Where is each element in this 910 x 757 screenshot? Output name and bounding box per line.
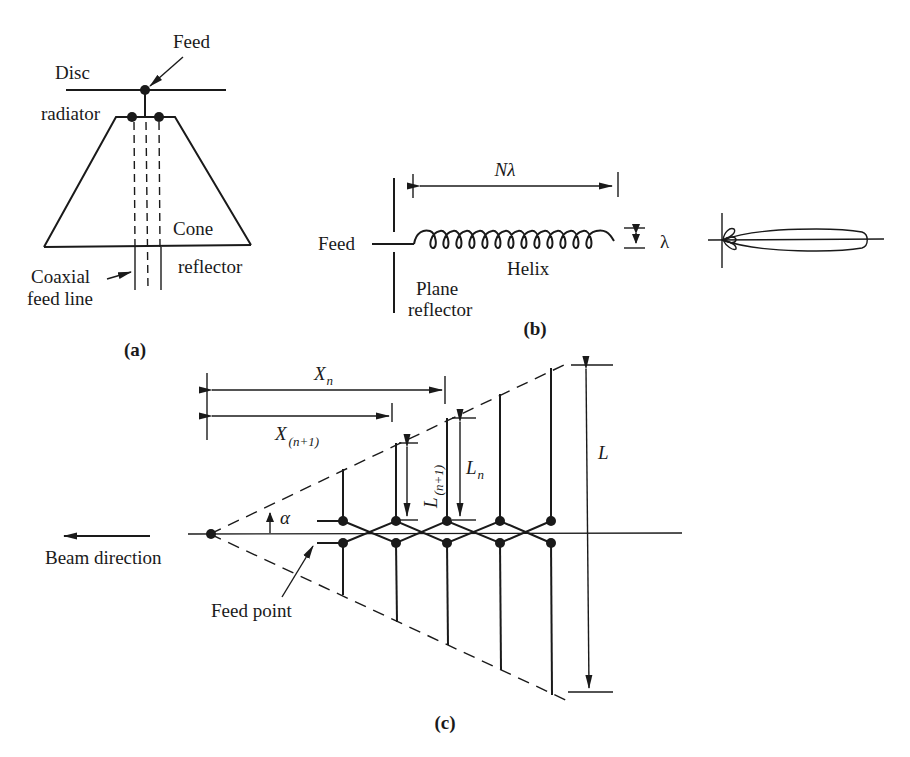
label-xn: Xn [313, 363, 333, 388]
label-reflector: reflector [178, 256, 243, 277]
coax-outer-dot-left [127, 112, 137, 122]
coax-outer-dot-right [154, 112, 164, 122]
feed-arrow-icon [150, 57, 183, 86]
apex-dot [206, 529, 216, 539]
helix-coil [414, 230, 614, 248]
element-2-lower [396, 543, 397, 622]
label-xn1: X(n+1) [274, 423, 319, 449]
element-4-lower [500, 543, 501, 670]
dipole-elements [343, 368, 552, 695]
label-ln1: L(n+1) [420, 465, 446, 509]
label-feed-line: feed line [27, 288, 93, 309]
coax-dashed-right [159, 122, 160, 247]
label-feed-point: Feed point [211, 600, 292, 621]
feed-point-arrow-icon [282, 546, 313, 597]
coax-dashed-center [146, 122, 148, 290]
panel-c-log-periodic-array: Xn X(n+1) L(n+1) Ln L α Beam direction F… [45, 363, 682, 734]
label-cone: Cone [173, 218, 213, 239]
antenna-figure: Feed Disc radiator Cone reflector Coaxia… [0, 0, 910, 757]
label-plane: Plane [416, 278, 458, 299]
label-radiator: radiator [41, 103, 101, 124]
crossed-feed-line [317, 516, 556, 548]
caption-a: (a) [124, 339, 146, 361]
pattern-horizontal-axis [708, 239, 884, 240]
coaxial-arrow-icon [107, 272, 131, 279]
label-ln: Ln [465, 457, 484, 482]
element-3-lower [447, 543, 448, 645]
coax-dashed-left [134, 122, 135, 247]
label-coaxial: Coaxial [31, 266, 90, 287]
caption-c: (c) [434, 712, 455, 734]
label-helix: Helix [507, 258, 550, 279]
label-beam-direction: Beam direction [45, 547, 162, 568]
label-feed: Feed [318, 233, 355, 254]
element-5-lower [551, 543, 552, 695]
radiation-pattern-icon [708, 213, 884, 268]
label-reflector: reflector [408, 299, 473, 320]
label-disc: Disc [55, 62, 90, 83]
panel-a-discone-antenna: Feed Disc radiator Cone reflector Coaxia… [27, 31, 251, 361]
caption-b: (b) [523, 318, 546, 340]
label-lambda: λ [660, 231, 670, 252]
panel-b-helical-antenna: Nλ Feed λ Helix Plane reflector (b) [318, 159, 884, 340]
label-l: L [597, 442, 609, 463]
label-alpha: α [280, 507, 291, 528]
array-axis [188, 533, 682, 534]
label-n-lambda: Nλ [494, 159, 516, 180]
label-feed: Feed [173, 31, 210, 52]
l-dimension-arrow [586, 369, 589, 688]
